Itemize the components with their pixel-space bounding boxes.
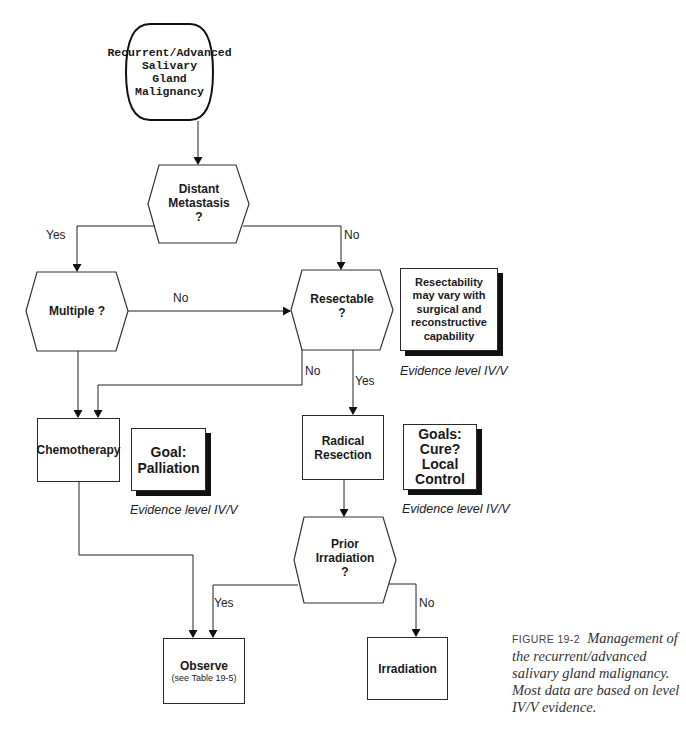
action-radical-resection: Radical Resection — [302, 415, 384, 480]
action-text: Irradiation — [378, 662, 437, 676]
action-text: Resection — [314, 448, 371, 462]
note-text: may vary with — [413, 289, 486, 303]
edge-label-resectable-yes: Yes — [355, 374, 375, 388]
start-line: Malignancy — [135, 85, 204, 98]
decision-text: Irradiation — [316, 551, 375, 565]
figure-caption: FIGURE 19-2 Management of the recurrent/… — [512, 630, 682, 716]
evidence-level-cure: Evidence level IV/V — [402, 502, 510, 516]
decision-distant-metastasis: Distant Metastasis ? — [150, 180, 248, 226]
figure-label: FIGURE 19-2 — [512, 633, 580, 645]
edge-label-metastasis-no: No — [344, 228, 359, 242]
flowchart-connectors — [0, 0, 686, 736]
edge-label-resectable-no: No — [305, 364, 320, 378]
note-text: Goals: — [418, 427, 462, 442]
note-text: capability — [424, 330, 475, 344]
decision-text: ? — [341, 565, 348, 579]
decision-text: Metastasis — [168, 196, 229, 210]
action-text: Radical — [322, 434, 365, 448]
edge-label-multiple-no: No — [173, 291, 188, 305]
decision-multiple: Multiple ? — [27, 302, 127, 320]
action-observe: Observe (see Table 19-5) — [163, 638, 245, 704]
evidence-level-resectability: Evidence level IV/V — [400, 364, 508, 378]
decision-text: Multiple ? — [49, 304, 105, 318]
note-text: Control — [415, 472, 465, 487]
start-line: Recurrent/Advanced — [107, 46, 231, 59]
decision-text: Resectable — [310, 292, 373, 306]
edge-label-irradiation-no: No — [419, 596, 434, 610]
note-text: Local — [422, 457, 459, 472]
decision-text: ? — [195, 210, 202, 224]
decision-resectable: Resectable ? — [292, 290, 392, 322]
note-text: reconstructive — [411, 316, 487, 330]
note-text: Palliation — [137, 460, 199, 476]
note-text: surgical and — [417, 303, 482, 317]
table-reference: (see Table 19-5) — [172, 673, 237, 684]
decision-text: ? — [338, 306, 345, 320]
action-chemotherapy: Chemotherapy — [37, 418, 120, 482]
start-line: Salivary — [142, 59, 197, 72]
start-line: Gland — [152, 72, 187, 85]
start-terminator: Recurrent/Advanced Salivary Gland Malign… — [126, 40, 213, 104]
edge-label-irradiation-yes: Yes — [214, 596, 234, 610]
note-text: Resectability — [415, 276, 483, 290]
action-text: Observe — [180, 659, 228, 673]
decision-prior-irradiation: Prior Irradiation ? — [295, 535, 395, 581]
edge-label-metastasis-yes: Yes — [46, 228, 66, 242]
action-text: Chemotherapy — [36, 443, 120, 457]
note-resectability: Resectability may vary with surgical and… — [400, 268, 498, 351]
evidence-level-palliation: Evidence level IV/V — [130, 503, 238, 517]
decision-text: Prior — [331, 537, 359, 551]
note-text: Cure? — [420, 442, 460, 457]
decision-text: Distant — [179, 182, 220, 196]
action-irradiation: Irradiation — [367, 637, 448, 700]
note-palliation: Goal: Palliation — [131, 428, 206, 491]
note-text: Goal: — [151, 444, 187, 460]
note-cure-local-control: Goals: Cure? Local Control — [403, 424, 477, 490]
